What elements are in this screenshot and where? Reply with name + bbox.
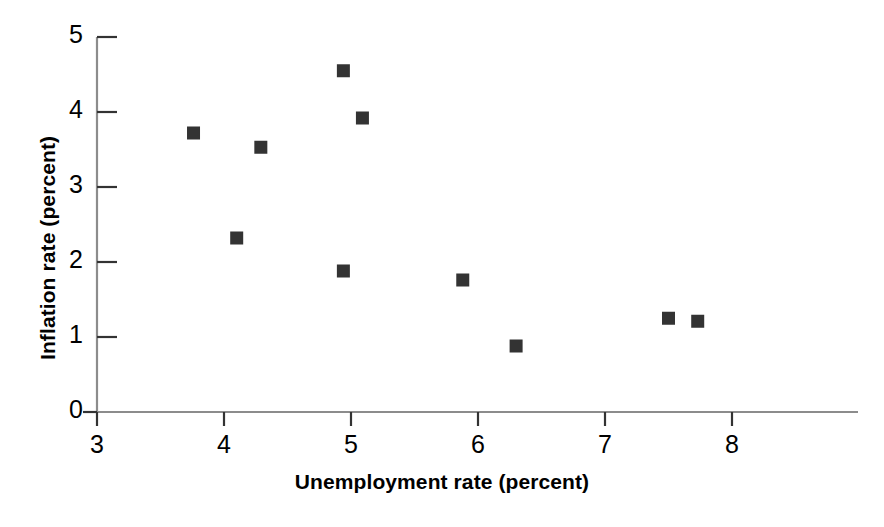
scatter-chart: Inflation rate (percent) Unemployment ra… bbox=[0, 0, 884, 527]
x-tick-label: 4 bbox=[204, 430, 244, 459]
data-point-marker bbox=[254, 141, 267, 154]
data-point-marker bbox=[337, 265, 350, 278]
y-tick-label: 1 bbox=[43, 320, 83, 349]
y-tick-label: 5 bbox=[43, 20, 83, 49]
data-point-marker bbox=[187, 127, 200, 140]
data-point-marker bbox=[510, 340, 523, 353]
data-point-marker bbox=[337, 64, 350, 77]
x-tick-label: 6 bbox=[458, 430, 498, 459]
data-point-marker bbox=[356, 112, 369, 125]
x-tick-label: 8 bbox=[712, 430, 752, 459]
x-tick-label: 7 bbox=[585, 430, 625, 459]
x-axis-title: Unemployment rate (percent) bbox=[0, 470, 884, 494]
data-point-marker bbox=[691, 315, 704, 328]
y-tick-label: 4 bbox=[43, 95, 83, 124]
data-point-marker bbox=[456, 274, 469, 287]
y-tick-label: 0 bbox=[43, 395, 83, 424]
x-tick-label: 5 bbox=[331, 430, 371, 459]
x-tick-label: 3 bbox=[77, 430, 117, 459]
y-tick-label: 2 bbox=[43, 245, 83, 274]
y-tick-label: 3 bbox=[43, 170, 83, 199]
data-point-marker bbox=[230, 232, 243, 245]
data-point-marker bbox=[662, 312, 675, 325]
